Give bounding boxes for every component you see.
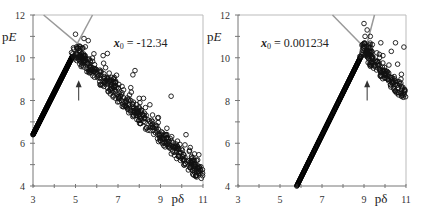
outlier-point: [393, 40, 398, 45]
x-tick-label: 9: [158, 194, 163, 205]
outlier-point: [101, 53, 106, 58]
outlier-point: [165, 126, 170, 131]
y-axis-label: pE: [207, 29, 222, 44]
outlier-point: [362, 21, 367, 26]
y-tick-label: 8: [225, 96, 230, 107]
y-tick-label: 10: [15, 53, 25, 64]
scatter-plots: 3579114681012pEpδx0 = -12.34357911468101…: [0, 0, 421, 220]
x-tick-label: 3: [31, 194, 36, 205]
outlier-point: [379, 40, 384, 45]
y-tick-label: 12: [220, 10, 230, 21]
x0-annotation: x0 = -12.34: [113, 36, 168, 51]
y-tick-label: 10: [220, 53, 230, 64]
outlier-point: [86, 38, 91, 43]
y-tick-label: 6: [225, 138, 230, 149]
chart-figure: 3579114681012pEpδx0 = -12.34357911468101…: [0, 0, 421, 220]
y-tick-label: 8: [20, 96, 25, 107]
x-tick-label: 7: [320, 194, 325, 205]
x-tick-label: 11: [198, 194, 208, 205]
outlier-point: [169, 94, 174, 99]
outlier-point: [389, 49, 394, 54]
outlier-point: [128, 85, 133, 90]
x-axis-label: pδ: [171, 191, 184, 206]
arrow-head-icon: [364, 80, 370, 87]
x-tick-label: 5: [278, 194, 283, 205]
arrow-head-icon: [76, 80, 82, 87]
x-tick-label: 5: [73, 194, 78, 205]
y-axis-label: pE: [2, 29, 17, 44]
x0-annotation: x0 = 0.001234: [260, 36, 329, 51]
guide-line: [44, 15, 82, 47]
outlier-point: [363, 34, 368, 39]
y-tick-label: 4: [20, 181, 25, 192]
outlier-point: [184, 132, 189, 137]
x-tick-label: 7: [116, 194, 121, 205]
x-tick-label: 9: [362, 194, 367, 205]
x-tick-label: 11: [401, 194, 411, 205]
y-tick-label: 12: [15, 10, 25, 21]
x-axis-label: pδ: [375, 191, 388, 206]
y-tick-label: 4: [225, 181, 230, 192]
outlier-point: [365, 28, 370, 33]
chart-panel-left: 3579114681012pEpδx0 = -12.34: [2, 10, 208, 206]
chart-panel-right: 3579114681012pEpδx0 = 0.001234: [207, 10, 411, 206]
outlier-point: [148, 102, 153, 107]
outlier-point: [395, 62, 400, 67]
guide-line: [333, 15, 362, 45]
y-tick-label: 6: [20, 138, 25, 149]
outlier-point: [73, 32, 78, 37]
x-tick-label: 3: [236, 194, 241, 205]
outlier-point: [131, 73, 136, 78]
